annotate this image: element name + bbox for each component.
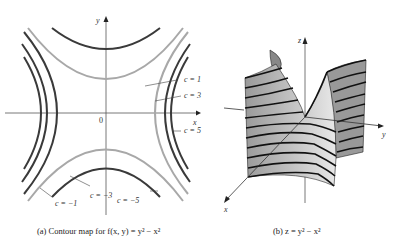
- label-c1: c = 1: [184, 75, 201, 84]
- axis-x-label-3d: x: [223, 205, 228, 214]
- saddle-surface: z y x: [223, 36, 386, 214]
- figure: c = 1 c = 3 c = 5 c = −1 c = −3 c = −5 y…: [0, 0, 400, 241]
- axis-z-label: z: [297, 36, 302, 45]
- caption-b: (b) z = y² − x²: [273, 226, 321, 236]
- label-cm3: c = −3: [90, 191, 112, 200]
- label-cm5: c = −5: [117, 196, 139, 205]
- label-c3: c = 3: [184, 91, 201, 100]
- label-cm1: c = −1: [55, 199, 77, 208]
- caption-a: (a) Contour map for f(x, y) = y² − x²: [37, 226, 160, 236]
- contour-map: c = 1 c = 3 c = 5 c = −1 c = −3 c = −5 y…: [5, 16, 201, 215]
- axis-y-label: y: [95, 16, 100, 25]
- origin-label: 0: [99, 116, 103, 125]
- label-c5: c = 5: [184, 126, 201, 135]
- axis-y-label-3d: y: [381, 130, 386, 139]
- axis-x-label: x: [192, 118, 197, 127]
